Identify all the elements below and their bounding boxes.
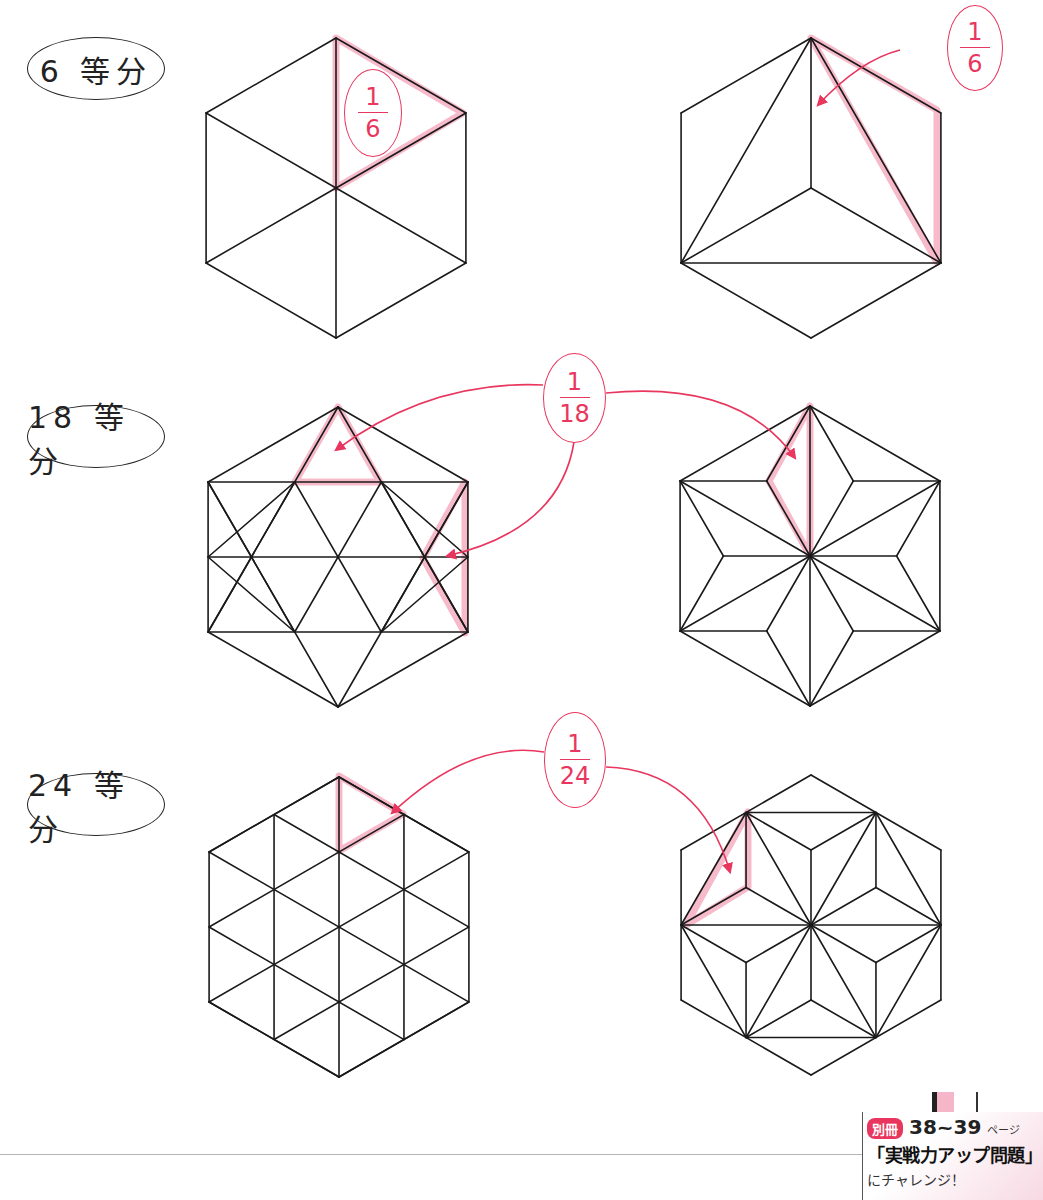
badge-cta: にチャレンジ！ (867, 1169, 1043, 1189)
row-label-6: 6 等分 (27, 37, 165, 100)
fraction-numerator: 1 (567, 732, 582, 759)
highlighted-region (295, 407, 380, 482)
fraction-numerator: 1 (365, 85, 380, 112)
fraction-denominator: 6 (967, 48, 982, 76)
page-range: 38~39 (909, 1115, 981, 1139)
pointer-arrow-icon (392, 750, 544, 813)
hex-18b (680, 406, 940, 706)
fraction-denominator: 24 (560, 760, 591, 788)
fraction-oval-1-24: 1 24 (544, 712, 606, 808)
fraction-denominator: 18 (559, 398, 590, 426)
pointer-arrow-icon (336, 385, 543, 450)
hexagon-layer (206, 38, 941, 1077)
hex-24a (209, 777, 469, 1077)
page-suffix: ページ (987, 1121, 1020, 1137)
page-divider (0, 1154, 862, 1155)
fraction-numerator: 1 (567, 370, 582, 397)
pencil-tab-icon (932, 1092, 954, 1112)
hex-18a (208, 407, 468, 707)
tick-mark (976, 1092, 978, 1112)
hex-24b (681, 775, 941, 1075)
highlighted-region (769, 406, 810, 556)
diagram-canvas (0, 0, 1043, 1200)
supplement-reference-badge: 別冊 38~39 ページ 「実戦力アップ問題」 にチャレンジ！ (862, 1112, 1043, 1200)
fraction-denominator: 6 (365, 113, 380, 141)
row-label-24: 24 等分 (27, 773, 165, 836)
badge-title: 「実戦力アップ問題」 (867, 1141, 1043, 1167)
fraction-oval-1-18: 1 18 (543, 353, 606, 443)
row-label-18: 18 等分 (27, 405, 165, 468)
hex-6b (681, 38, 941, 338)
pointer-arrow-icon (606, 391, 795, 458)
fraction-oval-1-6-left: 1 6 (344, 69, 402, 157)
highlighted-region (339, 776, 403, 851)
hex-6a (206, 38, 466, 338)
arrow-layer (336, 50, 900, 872)
pointer-arrow-icon (606, 767, 730, 872)
fraction-oval-1-6-right: 1 6 (947, 5, 1003, 91)
supplement-tag: 別冊 (867, 1118, 903, 1139)
fraction-numerator: 1 (967, 20, 982, 47)
